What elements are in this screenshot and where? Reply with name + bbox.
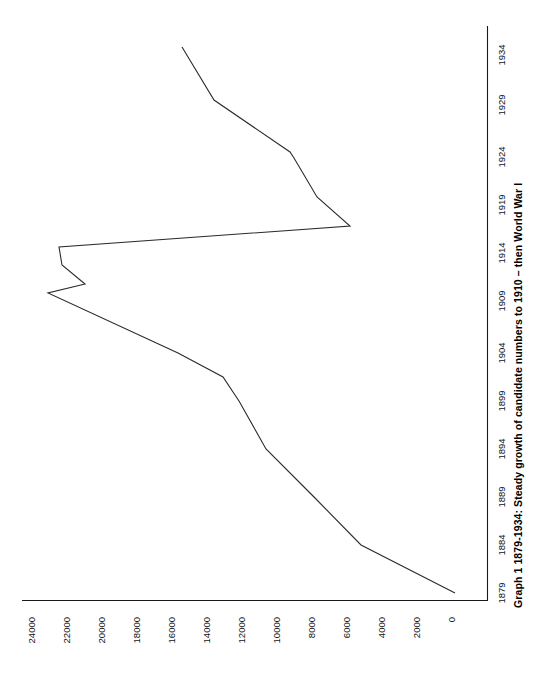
value-tick-0: 0 (446, 617, 457, 622)
chart-title: Graph 1 1879-1934: Steady growth of cand… (512, 183, 524, 608)
year-tick-1909: 1909 (496, 290, 507, 311)
value-tick-12000: 12000 (236, 617, 247, 643)
year-tick-1914: 1914 (496, 242, 507, 263)
value-tick-8000: 8000 (306, 617, 317, 638)
year-tick-1904: 1904 (496, 342, 507, 363)
year-tick-1879: 1879 (496, 582, 507, 603)
value-tick-14000: 14000 (201, 617, 212, 643)
year-tick-1919: 1919 (496, 194, 507, 215)
year-tick-1894: 1894 (496, 438, 507, 459)
data-series-line (48, 47, 455, 593)
year-tick-1899: 1899 (496, 390, 507, 411)
value-tick-6000: 6000 (341, 617, 352, 638)
chart-title-wrap: Graph 1 1879-1934: Steady growth of cand… (508, 0, 540, 674)
value-tick-2000: 2000 (411, 617, 422, 638)
year-tick-1929: 1929 (496, 94, 507, 115)
year-tick-1889: 1889 (496, 486, 507, 507)
year-tick-1934: 1934 (496, 44, 507, 65)
value-tick-10000: 10000 (271, 617, 282, 643)
value-tick-22000: 22000 (61, 617, 72, 643)
chart-figure: 24000 22000 20000 18000 16000 14000 (0, 0, 540, 674)
line-chart (0, 0, 540, 674)
year-tick-1924: 1924 (496, 146, 507, 167)
value-tick-18000: 18000 (131, 617, 142, 643)
value-tick-16000: 16000 (166, 617, 177, 643)
year-tick-1884: 1884 (496, 534, 507, 555)
value-tick-24000: 24000 (26, 617, 37, 643)
value-tick-20000: 20000 (96, 617, 107, 643)
value-tick-4000: 4000 (376, 617, 387, 638)
